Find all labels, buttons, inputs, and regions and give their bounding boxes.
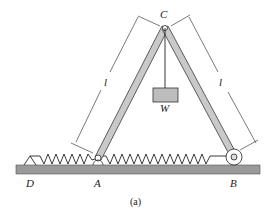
ground [16,165,260,174]
weight-W [153,88,178,102]
dim-left-line-lower [76,90,101,142]
dim-right-line-lower [228,92,256,143]
dim-left-ext-bottom [71,143,93,153]
figure-caption: (a) [130,197,141,207]
label-A: A [94,178,101,189]
anchor-D [24,156,36,165]
label-l-right: l [219,77,222,88]
two-bar-frame-diagram: C W l l D A B (a) [0,0,276,211]
dim-right-line-upper [189,17,218,72]
label-B: B [230,178,237,189]
label-C: C [160,9,167,20]
pin-B [231,154,237,160]
spring-DA [30,154,98,164]
spring-AB [100,154,230,164]
dim-left-line-upper [110,17,138,72]
label-W: W [160,103,169,114]
dim-right-ext-top [171,15,190,26]
label-D: D [26,178,34,189]
dim-left-ext-top [138,16,160,26]
label-l-left: l [104,77,107,88]
